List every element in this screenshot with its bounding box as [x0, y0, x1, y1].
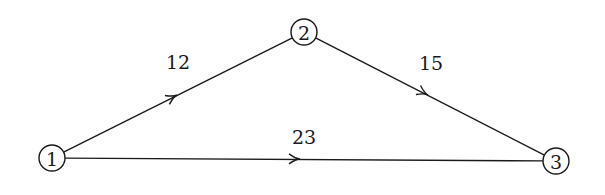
edge-1-3 [65, 158, 543, 161]
node-label: 3 [550, 151, 562, 173]
graph-diagram: 12 15 23 1 2 3 [0, 0, 605, 195]
node-label: 2 [298, 22, 310, 44]
edge-weight-label: 15 [419, 52, 443, 74]
edge-weight-label: 23 [292, 126, 316, 148]
edge-weight-label: 12 [166, 51, 190, 73]
nodes-layer: 1 2 3 [39, 19, 569, 174]
graph-svg: 12 15 23 1 2 3 [0, 0, 605, 195]
node-label: 1 [46, 148, 58, 170]
edge-labels-layer: 12 15 23 [166, 51, 443, 148]
arrow-head-icon [165, 95, 177, 104]
